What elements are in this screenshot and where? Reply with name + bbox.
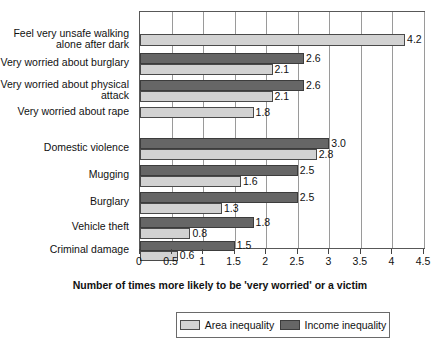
category-label: Very worried about rape xyxy=(0,106,129,118)
bar-value-label: 4.2 xyxy=(407,34,422,45)
bar-income xyxy=(140,138,329,149)
x-axis-tick-label: 1 xyxy=(199,255,205,267)
bar-value-label: 1.8 xyxy=(256,107,271,118)
bar-value-label: 1.3 xyxy=(224,203,239,214)
bar-area xyxy=(140,203,222,214)
category-label: Criminal damage xyxy=(0,244,129,256)
x-axis-tick-label: 4.5 xyxy=(416,255,431,267)
bar-value-label: 3.0 xyxy=(331,138,346,149)
legend-label-area: Area inequality xyxy=(205,319,274,331)
gridline xyxy=(361,12,362,248)
x-axis-tick xyxy=(265,249,266,254)
legend-entry-area: Area inequality xyxy=(180,319,274,331)
bar-value-label: 2.1 xyxy=(275,64,290,75)
bar-value-label: 2.1 xyxy=(275,91,290,102)
x-axis-tick xyxy=(139,249,140,254)
x-axis-tick xyxy=(328,249,329,254)
bar-area xyxy=(140,228,190,239)
bar-area xyxy=(140,91,273,102)
x-axis-title: Number of times more likely to be 'very … xyxy=(0,279,440,291)
bar-value-label: 2.5 xyxy=(300,165,315,176)
bar-value-label: 1.6 xyxy=(243,176,258,187)
legend-swatch-area-icon xyxy=(180,320,200,330)
x-axis-tick-label: 0 xyxy=(136,255,142,267)
x-axis-tick-label: 1.5 xyxy=(226,255,241,267)
category-label: Vehicle theft xyxy=(0,221,129,233)
category-label: Burglary xyxy=(0,196,129,208)
x-axis-tick-label: 2 xyxy=(262,255,268,267)
category-axis-labels: Feel very unsafe walking alone after dar… xyxy=(0,11,134,249)
bar-area xyxy=(140,107,254,118)
x-axis-tick-label: 2.5 xyxy=(289,255,304,267)
bar-area xyxy=(140,34,405,46)
x-axis-tick xyxy=(360,249,361,254)
gridline xyxy=(329,12,330,248)
gridline xyxy=(424,12,425,248)
plot-area: 4.22.62.12.62.11.83.02.82.51.62.51.31.80… xyxy=(139,11,425,249)
bar-area xyxy=(140,64,273,75)
x-axis-tick-label: 0.5 xyxy=(163,255,178,267)
category-label: Very worried about burglary xyxy=(0,57,129,69)
bar-chart: Feel very unsafe walking alone after dar… xyxy=(0,0,440,348)
bar-value-label: 2.6 xyxy=(306,80,321,91)
x-axis-tick xyxy=(202,249,203,254)
bar-value-label: 1.8 xyxy=(256,217,271,228)
bar-income xyxy=(140,192,298,203)
x-axis-tick xyxy=(234,249,235,254)
x-axis-tick-label: 4 xyxy=(389,255,395,267)
gridline xyxy=(266,12,267,248)
gridline xyxy=(298,12,299,248)
x-axis-tick xyxy=(391,249,392,254)
category-label: Mugging xyxy=(0,169,129,181)
x-axis-tick-label: 3 xyxy=(325,255,331,267)
x-axis: 00.511.522.533.544.5 xyxy=(139,249,425,255)
bar-value-label: 2.6 xyxy=(306,53,321,64)
chart-legend: Area inequality Income inequality xyxy=(176,312,390,338)
legend-swatch-income-icon xyxy=(280,320,300,330)
bar-area xyxy=(140,176,241,187)
category-label: Domestic violence xyxy=(0,142,129,154)
legend-label-income: Income inequality xyxy=(305,319,387,331)
legend-entry-income: Income inequality xyxy=(280,319,387,331)
bar-value-label: 0.8 xyxy=(192,228,207,239)
x-axis-tick-label: 3.5 xyxy=(353,255,368,267)
gridline xyxy=(392,12,393,248)
x-axis-tick xyxy=(171,249,172,254)
category-label: Feel very unsafe walking alone after dar… xyxy=(0,28,129,51)
bar-value-label: 2.5 xyxy=(300,192,315,203)
bar-income xyxy=(140,165,298,176)
x-axis-tick xyxy=(423,249,424,254)
x-axis-tick xyxy=(297,249,298,254)
category-label: Very worried about physical attack xyxy=(0,79,129,102)
bar-area xyxy=(140,149,317,160)
bar-value-label: 2.8 xyxy=(319,149,334,160)
